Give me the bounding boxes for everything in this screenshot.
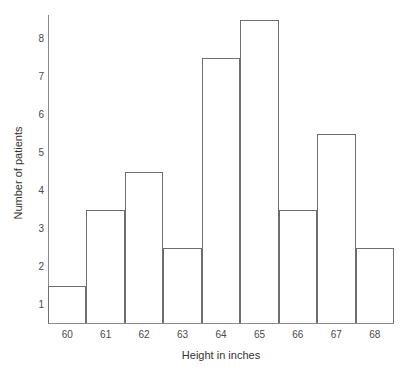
x-axis-title: Height in inches <box>48 349 394 361</box>
histogram-bar <box>356 248 394 323</box>
y-tick-label: 7 <box>30 72 44 82</box>
histogram-bar <box>125 172 163 323</box>
y-tick-label: 1 <box>30 300 44 310</box>
x-tick-label: 64 <box>202 329 240 341</box>
y-tick-label: 4 <box>30 186 44 196</box>
y-tick-label: 8 <box>30 34 44 44</box>
histogram-bar <box>86 210 124 323</box>
y-tick-label: 5 <box>30 148 44 158</box>
x-tick-label: 65 <box>240 329 278 341</box>
y-axis-title: Number of patients <box>12 98 24 248</box>
x-tick-label: 60 <box>48 329 86 341</box>
histogram-bar <box>279 210 317 323</box>
histogram-bar <box>317 134 355 323</box>
histogram-bar <box>240 20 278 323</box>
x-axis-line <box>48 323 394 324</box>
y-tick-label: 6 <box>30 110 44 120</box>
x-axis-tick-labels: 606162636465666768 <box>48 329 394 345</box>
x-tick-label: 68 <box>356 329 394 341</box>
histogram-bar <box>202 58 240 323</box>
x-tick-label: 66 <box>279 329 317 341</box>
histogram-bar <box>163 248 201 323</box>
x-tick-label: 63 <box>163 329 201 341</box>
y-tick-label: 2 <box>30 262 44 272</box>
y-axis-tick-labels: 12345678 <box>26 0 44 373</box>
histogram-bar <box>48 286 86 323</box>
x-tick-label: 62 <box>125 329 163 341</box>
y-tick-label: 3 <box>30 224 44 234</box>
x-tick-label: 67 <box>317 329 355 341</box>
histogram-figure: 12345678 Number of patients 606162636465… <box>0 0 414 373</box>
plot-area <box>48 10 394 323</box>
x-tick-label: 61 <box>86 329 124 341</box>
